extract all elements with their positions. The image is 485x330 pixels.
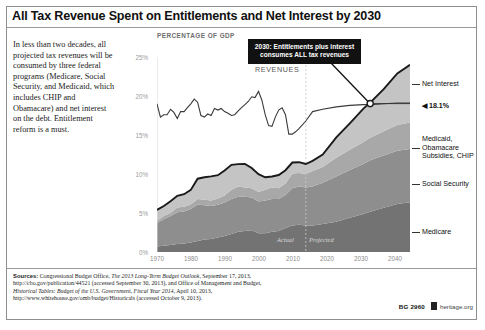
sources-line3b: , April 10, 2013, <box>174 288 213 294</box>
phase-label-projected: Projected <box>309 236 334 243</box>
chart-series-group <box>157 57 410 252</box>
plot-area: Actual Projected <box>157 57 410 252</box>
sources-line3a: Historical Tables: Budget of the U.S. Go… <box>13 288 174 294</box>
legend-item-net-interest: Net Interest <box>422 80 459 89</box>
chart-container: PERCENTAGE OF GDP <box>120 32 410 264</box>
legend-leader-medicaid <box>412 148 420 149</box>
sources-line1c: , September 17, 2013, <box>199 273 251 279</box>
phase-label-actual: Actual <box>277 236 294 243</box>
legend-item-medicaid: Medicaid, Obamacare Subsidies, CHIP <box>422 135 484 161</box>
x-tick-2020: 2020 <box>312 255 342 262</box>
legend-leader-medicare <box>412 232 420 233</box>
legend-leader-net-interest <box>412 84 420 85</box>
area-chart-svg <box>157 57 410 252</box>
legend-leader-social-security <box>412 184 420 185</box>
legend-label-net-interest: Net Interest <box>422 80 459 88</box>
legend-label-medicaid: Medicaid, Obamacare Subsidies, CHIP <box>422 135 474 160</box>
legend-item-crossing-value: ◀ 18.1% <box>422 102 449 111</box>
x-tick-2000: 2000 <box>244 255 274 262</box>
legend-label-medicare: Medicare <box>422 228 451 236</box>
y-tick-25: 25% <box>122 54 148 61</box>
sources-line2: http://cbo.gov/publication/44521 (access… <box>13 280 262 286</box>
y-axis-title: PERCENTAGE OF GDP <box>157 32 235 39</box>
revenues-series-label: REVENUES <box>255 65 299 74</box>
x-tick-2030: 2030 <box>346 255 376 262</box>
title-divider <box>7 27 476 28</box>
x-tick-1990: 1990 <box>210 255 240 262</box>
report-number: BG 2960 <box>399 303 425 310</box>
x-tick-1970: 1970 <box>142 255 172 262</box>
heritage-logo-icon <box>431 302 437 310</box>
sources-line1b: The 2013 Long-Term Budget Outlook <box>111 273 199 279</box>
sources-line1a: Congressional Budget Office, <box>38 273 111 279</box>
y-tick-10: 10% <box>122 171 148 178</box>
y-tick-15: 15% <box>122 132 148 139</box>
infographic-card: All Tax Revenue Spent on Entitlements an… <box>0 0 485 330</box>
callout-leader-line <box>331 63 368 102</box>
x-tick-2040: 2040 <box>380 255 410 262</box>
callout-annotation: 2030: Entitlements plus interest consume… <box>248 39 361 64</box>
sources-label: Sources: <box>13 273 38 279</box>
sources-block: Sources: Congressional Budget Office, Th… <box>13 273 433 303</box>
legend-item-medicare: Medicare <box>422 228 451 237</box>
x-tick-2010: 2010 <box>278 255 308 262</box>
y-tick-5: 5% <box>122 210 148 217</box>
sources-line4: http://www.whitehouse.gov/omb/budget/His… <box>13 295 202 301</box>
sources-divider <box>7 268 476 269</box>
brand-url[interactable]: heritage.org <box>440 303 473 310</box>
legend-item-social-security: Social Security <box>422 180 469 189</box>
summary-text: In less than two decades, all projected … <box>13 40 116 135</box>
y-tick-20: 20% <box>122 93 148 100</box>
x-tick-1980: 1980 <box>176 255 206 262</box>
legend: Net Interest ◀ 18.1% Medicaid, Obamacare… <box>412 32 482 264</box>
page-title: All Tax Revenue Spent on Entitlements an… <box>12 9 467 23</box>
legend-label-crossing-value: ◀ 18.1% <box>422 102 449 110</box>
legend-label-social-security: Social Security <box>422 180 469 188</box>
